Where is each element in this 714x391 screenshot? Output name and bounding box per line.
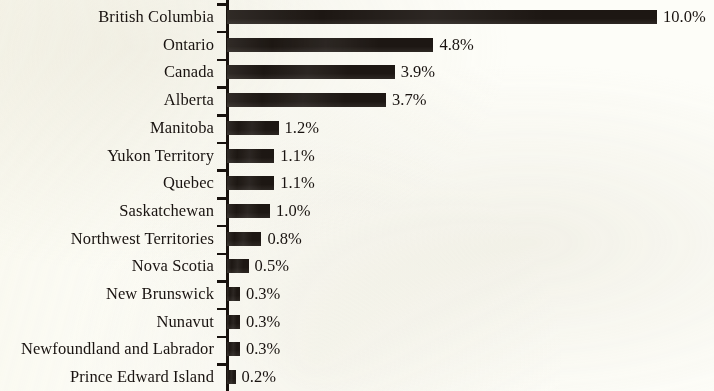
category-label: Newfoundland and Labrador (0, 341, 214, 358)
axis-tick (217, 114, 227, 117)
bar-chart: British Columbia10.0%Ontario4.8%Canada3.… (0, 0, 714, 391)
category-label: Quebec (0, 175, 214, 192)
bar-row: Manitoba1.2% (0, 114, 714, 142)
category-label: Northwest Territories (0, 230, 214, 247)
category-label: Saskatchewan (0, 202, 214, 219)
bar (227, 259, 249, 273)
bar-row: Ontario4.8% (0, 31, 714, 59)
bar-value-label: 1.1% (280, 175, 314, 192)
bar-value-label: 10.0% (663, 9, 706, 26)
bar-row: Alberta3.7% (0, 86, 714, 114)
bar-row: Nova Scotia0.5% (0, 253, 714, 281)
bar-value-label: 3.7% (392, 92, 426, 109)
bar (227, 65, 395, 79)
bar-value-label: 0.3% (246, 341, 280, 358)
bar (227, 121, 279, 135)
bar-value-label: 0.3% (246, 313, 280, 330)
bar (227, 287, 240, 301)
bar-row: Saskatchewan1.0% (0, 197, 714, 225)
bar-value-label: 1.2% (285, 120, 319, 137)
category-label: Nunavut (0, 313, 214, 330)
axis-tick (217, 3, 227, 6)
category-label: Manitoba (0, 119, 214, 136)
axis-tick (217, 363, 227, 366)
bar (227, 176, 274, 190)
axis-tick (217, 59, 227, 62)
axis-tick (217, 31, 227, 34)
bar (227, 204, 270, 218)
category-label: Prince Edward Island (0, 368, 214, 385)
bar-value-label: 0.3% (246, 286, 280, 303)
bar-row: Northwest Territories0.8% (0, 225, 714, 253)
bar-value-label: 1.0% (276, 203, 310, 220)
bar-value-label: 3.9% (401, 64, 435, 81)
bar (227, 342, 240, 356)
category-label: Nova Scotia (0, 258, 214, 275)
axis-tick (217, 253, 227, 256)
bar-value-label: 0.5% (255, 258, 289, 275)
bar-row: Newfoundland and Labrador0.3% (0, 336, 714, 364)
bar-row: Canada3.9% (0, 59, 714, 87)
axis-tick (217, 86, 227, 89)
axis-tick (217, 142, 227, 145)
category-label: Yukon Territory (0, 147, 214, 164)
category-label: New Brunswick (0, 285, 214, 302)
bar-row: British Columbia10.0% (0, 3, 714, 31)
bar (227, 38, 433, 52)
bar-value-label: 0.2% (242, 369, 276, 386)
bar-row: Yukon Territory1.1% (0, 142, 714, 170)
axis-tick (217, 336, 227, 339)
axis-tick (217, 169, 227, 172)
bar (227, 93, 386, 107)
category-label: Alberta (0, 91, 214, 108)
bar (227, 10, 657, 24)
bar-row: Nunavut0.3% (0, 308, 714, 336)
category-label: British Columbia (0, 8, 214, 25)
bar-value-label: 4.8% (439, 36, 473, 53)
axis-tick (217, 197, 227, 200)
bar-value-label: 0.8% (267, 230, 301, 247)
bar (227, 149, 274, 163)
bar-row: Prince Edward Island0.2% (0, 363, 714, 391)
bar-row: Quebec1.1% (0, 169, 714, 197)
bar-row: New Brunswick0.3% (0, 280, 714, 308)
axis-tick (217, 280, 227, 283)
category-label: Canada (0, 64, 214, 81)
axis-tick (217, 225, 227, 228)
bar (227, 315, 240, 329)
category-label: Ontario (0, 36, 214, 53)
bar (227, 232, 261, 246)
axis-tick (217, 308, 227, 311)
bar (227, 370, 236, 384)
bar-value-label: 1.1% (280, 147, 314, 164)
